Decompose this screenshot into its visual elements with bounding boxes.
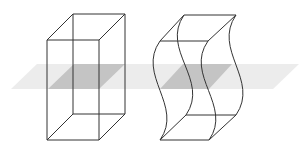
wavy-prism-edge — [209, 115, 236, 140]
wavy-prism-edge — [201, 41, 216, 140]
wavy-prism-edge — [160, 15, 184, 41]
figure-canvas — [0, 0, 299, 151]
rectangular-prism-edge — [99, 114, 125, 140]
rectangular-prism-edge — [99, 14, 125, 40]
wavy-prism-edge — [160, 115, 186, 140]
solids-cross-section-diagram — [0, 0, 299, 151]
rectangular-prism-edge — [47, 114, 73, 140]
rectangular-prism-edge — [47, 14, 73, 40]
wavy-prism-edge — [208, 15, 236, 41]
wavy-prism-edge — [153, 41, 167, 140]
